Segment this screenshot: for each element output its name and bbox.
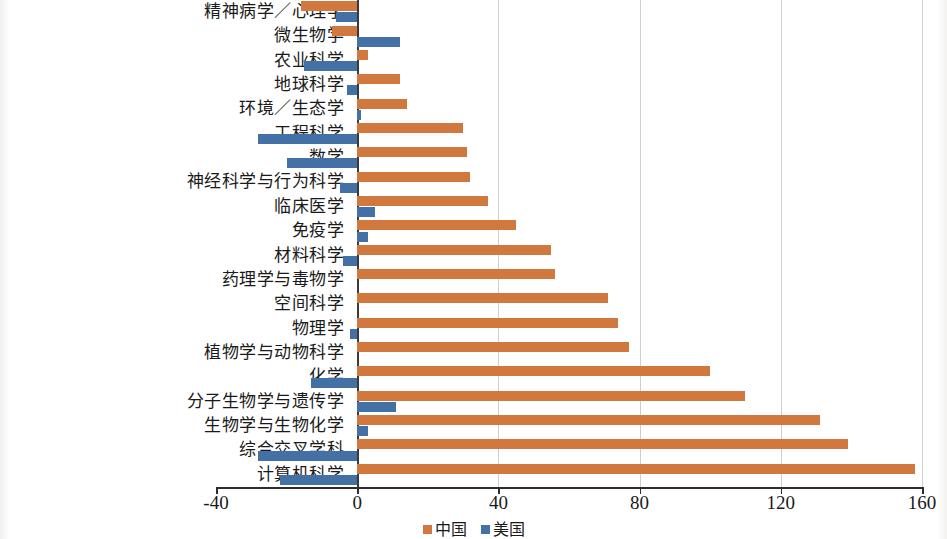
bar-china	[301, 1, 357, 11]
bar-usa	[258, 451, 357, 461]
bar-row	[216, 122, 922, 146]
bar-row	[216, 390, 922, 414]
bar-row	[216, 97, 922, 121]
legend-item[interactable]: 美国	[481, 516, 525, 539]
bar-row	[216, 292, 922, 316]
bar-usa	[357, 110, 361, 120]
legend-label: 中国	[435, 516, 467, 539]
bar-china	[357, 318, 618, 328]
bar-china	[357, 50, 368, 60]
bar-usa	[280, 475, 358, 485]
bar-usa	[357, 232, 368, 242]
chart-legend: 中国美国	[0, 516, 947, 539]
x-axis-line	[216, 487, 923, 489]
bar-usa	[357, 426, 368, 436]
bar-china	[357, 123, 463, 133]
bar-usa	[340, 183, 358, 193]
bar-china	[357, 342, 629, 352]
plot-area	[216, 0, 922, 487]
x-tick-label: 0	[352, 492, 362, 514]
bar-row	[216, 317, 922, 341]
bar-row	[216, 146, 922, 170]
bar-chart: 精神病学／心理学微生物学农业科学地球科学环境／生态学工程科学数学神经科学与行为科…	[0, 0, 947, 539]
page-edge-shade-right	[937, 0, 947, 539]
bar-row	[216, 341, 922, 365]
x-tick-label: 160	[908, 492, 937, 514]
bar-usa	[350, 329, 357, 339]
bar-row	[216, 195, 922, 219]
bar-row	[216, 463, 922, 487]
bar-china	[357, 439, 848, 449]
bar-row	[216, 414, 922, 438]
bar-usa	[357, 207, 375, 217]
bar-usa	[336, 12, 357, 22]
bar-china	[357, 220, 516, 230]
bar-row	[216, 0, 922, 24]
legend-swatch-icon	[481, 525, 490, 534]
bar-usa	[357, 37, 399, 47]
bar-row	[216, 365, 922, 389]
bar-china	[357, 293, 608, 303]
bar-row	[216, 219, 922, 243]
bar-china	[357, 366, 710, 376]
bar-china	[357, 172, 470, 182]
bar-row	[216, 49, 922, 73]
x-tick-label: 80	[630, 492, 649, 514]
bar-row	[216, 170, 922, 194]
bar-row	[216, 268, 922, 292]
bar-row	[216, 73, 922, 97]
bar-row	[216, 24, 922, 48]
bar-china	[357, 147, 466, 157]
bar-usa	[287, 158, 358, 168]
bar-row	[216, 244, 922, 268]
bar-usa	[304, 61, 357, 71]
bar-usa	[311, 378, 357, 388]
bar-usa	[258, 134, 357, 144]
bar-usa	[347, 85, 358, 95]
gridline	[922, 0, 923, 487]
bar-china	[357, 99, 406, 109]
bar-china	[357, 245, 551, 255]
legend-swatch-icon	[423, 525, 432, 534]
bar-china	[357, 74, 399, 84]
legend-item[interactable]: 中国	[423, 516, 467, 539]
bar-china	[332, 26, 357, 36]
bar-china	[357, 391, 745, 401]
legend-label: 美国	[493, 516, 525, 539]
bar-usa	[357, 402, 396, 412]
bar-row	[216, 438, 922, 462]
x-tick-label: 120	[767, 492, 796, 514]
bar-china	[357, 415, 819, 425]
bar-china	[357, 196, 488, 206]
bar-china	[357, 269, 555, 279]
x-tick-label: -40	[203, 492, 228, 514]
bar-china	[357, 464, 915, 474]
x-tick-label: 40	[489, 492, 508, 514]
bar-usa	[343, 256, 357, 266]
